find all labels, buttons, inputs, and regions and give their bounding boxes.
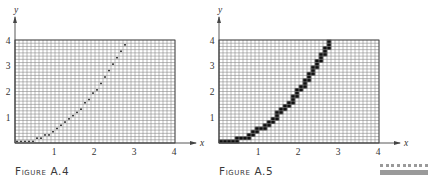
y-axis-label: y [217,5,223,15]
x-tick-label: 2 [92,147,97,157]
y-tick-label: 2 [210,87,215,97]
y-axis-arrow-icon [217,16,221,23]
x-tick-label: 2 [296,147,301,157]
dotted-rule [380,164,428,167]
y-tick-label: 3 [6,61,11,71]
y-axis-arrow-icon [13,16,17,23]
axes [15,17,196,143]
figure-a4-plot: yx12341234 [0,0,215,182]
x-tick-label: 4 [376,147,381,157]
figure-a5-plot: yx12341234 [204,0,430,182]
y-tick-label: 1 [6,113,11,123]
y-tick-label: 2 [6,87,11,97]
x-axis-label: x [403,138,409,148]
y-tick-label: 4 [6,36,11,46]
x-tick-label: 3 [132,147,137,157]
y-tick-label: 3 [210,61,215,71]
x-tick-label: 1 [256,147,261,157]
y-axis-label: y [13,5,19,15]
figure-a4-caption: Figure A.4 [15,165,69,177]
x-axis-arrow-icon [190,141,197,145]
y-tick-label: 4 [210,36,215,46]
x-axis-arrow-icon [394,141,401,145]
x-tick-label: 1 [52,147,57,157]
y-tick-label: 1 [210,113,215,123]
figure-a4: yx12341234 Figure A.4 [0,0,215,182]
figure-a5-caption: Figure A.5 [219,165,273,177]
decorative-rule [380,164,428,178]
x-tick-label: 4 [172,147,177,157]
solid-rule [380,170,428,175]
figure-a5: yx12341234 Figure A.5 [204,0,419,182]
pixel-grid [219,40,379,143]
x-tick-label: 3 [336,147,341,157]
pixel-grid [15,40,175,143]
